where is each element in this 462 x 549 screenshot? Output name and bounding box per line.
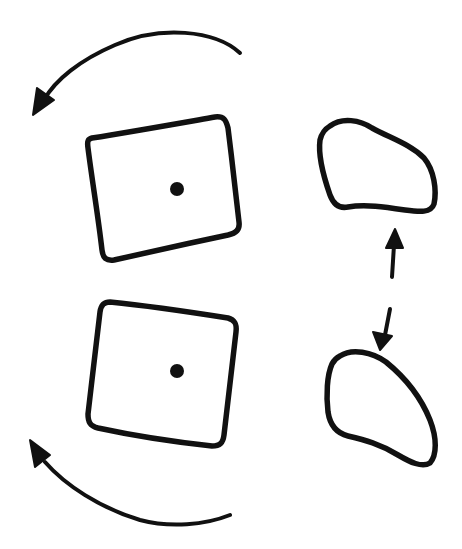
top-square-center-dot bbox=[170, 182, 184, 196]
bottom-square bbox=[88, 302, 236, 446]
down-arrowhead-icon bbox=[373, 332, 392, 350]
diagram-canvas bbox=[0, 0, 462, 549]
bottom-rotation-arrow bbox=[30, 440, 230, 525]
bottom-blob bbox=[327, 352, 435, 465]
top-blob bbox=[320, 120, 436, 211]
top-rotation-arrow bbox=[33, 33, 240, 115]
up-arrow bbox=[386, 229, 403, 277]
top-square bbox=[88, 117, 240, 260]
up-arrowhead-icon bbox=[386, 229, 403, 248]
bottom-square-center-dot bbox=[170, 364, 184, 378]
down-arrow bbox=[373, 309, 392, 350]
